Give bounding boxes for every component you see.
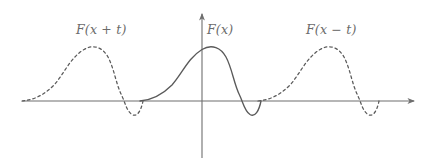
curve-f-x — [140, 47, 261, 115]
curve-f-x-plus-t — [22, 47, 143, 115]
curve-f-x-minus-t — [258, 47, 379, 115]
curve-label-f-x-minus-t: F(x − t) — [306, 22, 357, 37]
curve-label-f-x-plus-t: F(x + t) — [76, 22, 127, 37]
curve-label-f-x: F(x) — [207, 22, 233, 37]
figure-container: F(x + t) F(x) F(x − t) — [0, 0, 425, 163]
